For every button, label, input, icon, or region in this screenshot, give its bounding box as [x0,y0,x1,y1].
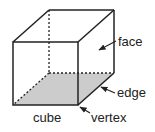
cube-label: cube [33,110,61,125]
edge-arrow [101,87,115,93]
bottom-face-shaded [13,73,114,105]
face-label: face [118,34,143,49]
cube-diagram: face edge vertex cube [0,0,155,132]
vertex-arrow [80,107,90,113]
edge-label: edge [117,85,146,100]
vertex-label: vertex [91,110,127,125]
